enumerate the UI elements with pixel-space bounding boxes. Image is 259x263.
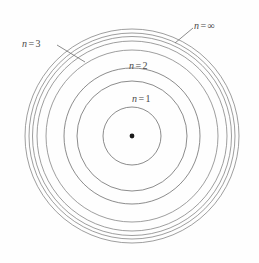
label-n-3: n=3 (22, 39, 41, 49)
label-n-2: n=2 (129, 61, 148, 71)
label-n-infinity: n=∞ (194, 21, 215, 31)
label-n-3-value: 3 (35, 38, 40, 49)
label-n-1-value: 1 (145, 93, 150, 104)
leader-line-n-3 (57, 45, 85, 62)
leader-line-n-∞ (175, 28, 193, 43)
label-n-2-value: 2 (142, 60, 147, 71)
label-n-1: n=1 (132, 94, 151, 104)
bohr-model-figure: n=∞ n=3 n=2 n=1 (0, 0, 259, 263)
nucleus-dot (130, 134, 135, 139)
label-n-infinity-value: ∞ (207, 20, 215, 31)
